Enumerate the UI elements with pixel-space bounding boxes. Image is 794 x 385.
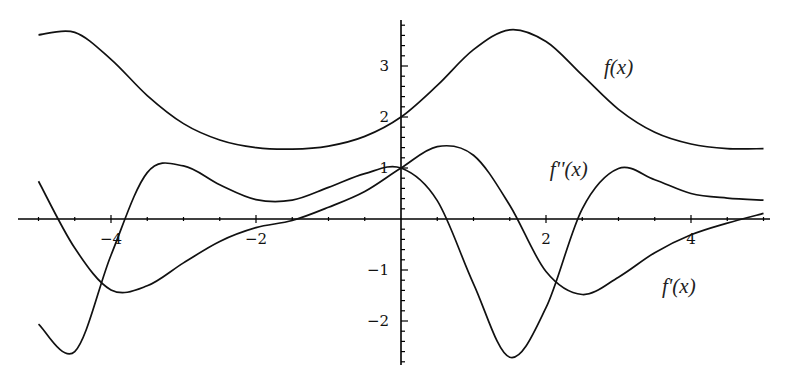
y-tick-label: 3 [379,57,389,75]
label-f: f(x) [604,55,633,79]
x-tick-label: 2 [541,230,551,248]
function-derivatives-plot: −4−224321−1−2 f(x) f''(x) f'(x) [0,0,794,385]
label-f-prime: f'(x) [662,274,696,298]
x-tick-label: −2 [245,230,267,248]
label-f-double-prime: f''(x) [550,157,588,181]
y-tick-label: −1 [367,261,389,279]
y-tick-label: −2 [367,312,389,330]
x-tick-label: −4 [100,230,122,248]
y-tick-label: 2 [379,108,389,126]
